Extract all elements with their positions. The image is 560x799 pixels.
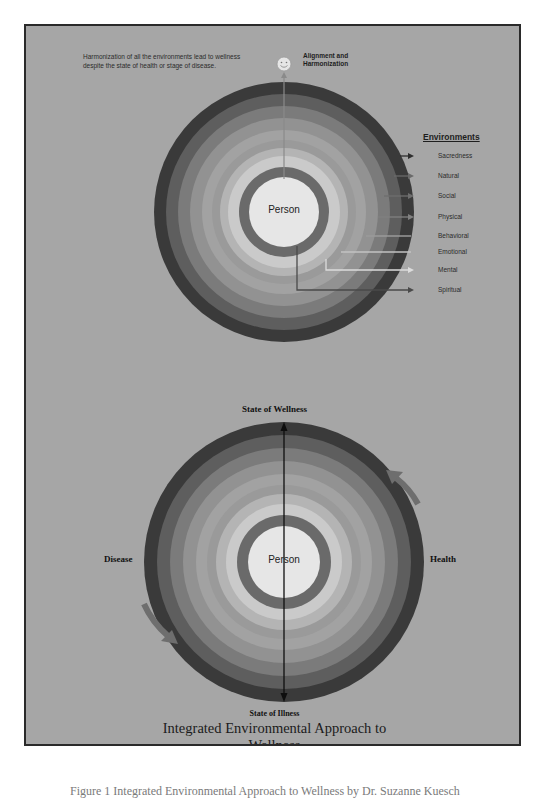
harmonization-note: Harmonization of all the environments le… <box>83 52 253 70</box>
env-label-natural: Natural <box>438 172 459 179</box>
env-label-sacredness: Sacredness <box>438 152 472 159</box>
disease-label: Disease <box>104 554 133 564</box>
bottom-person-label: Person <box>249 554 319 565</box>
smiley-face-icon <box>277 57 291 71</box>
env-label-physical: Physical <box>438 213 462 220</box>
alignment-label-line1: Alignment and <box>303 52 363 60</box>
figure-title-line1: Integrated Environmental Approach to <box>26 720 521 737</box>
env-label-behavioral: Behavioral <box>438 232 469 239</box>
env-label-social: Social <box>438 192 456 199</box>
state-of-wellness-label: State of Wellness <box>26 404 521 414</box>
env-label-spiritual: Spiritual <box>438 286 461 293</box>
top-person-label: Person <box>249 204 319 215</box>
figure-title: Integrated Environmental Approach to Wel… <box>26 720 521 746</box>
figure-frame: Harmonization of all the environments le… <box>24 24 521 746</box>
health-label: Health <box>430 554 456 564</box>
environments-legend-title: Environments <box>423 132 480 142</box>
env-label-emotional: Emotional <box>438 248 467 255</box>
alignment-label-line2: Harmonization <box>303 60 363 68</box>
state-of-illness-label: State of Illness <box>26 709 521 718</box>
figure-title-line2: Wellness <box>26 737 521 746</box>
alignment-label: Alignment and Harmonization <box>303 52 363 68</box>
figure-caption: Figure 1 Integrated Environmental Approa… <box>70 784 510 799</box>
env-label-mental: Mental <box>438 266 458 273</box>
